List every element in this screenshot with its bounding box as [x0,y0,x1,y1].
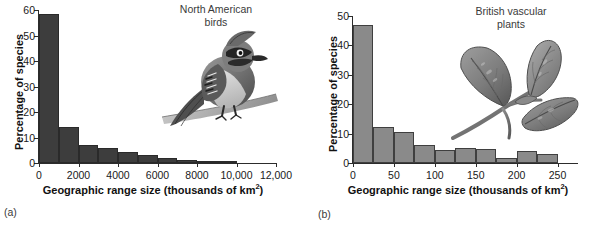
y-tick-label: 40 [337,39,349,51]
bar [476,149,496,163]
x-tick [353,163,354,167]
x-tick-label: 10,000 [220,169,252,181]
x-tick-label: 6000 [146,169,169,181]
bar [39,14,59,163]
x-tick [79,163,80,167]
x-tick [276,163,277,167]
y-tick-label: 10 [337,128,349,140]
x-tick-label: 150 [467,169,485,181]
x-tick-label: 12,000 [260,169,292,181]
x-tick-label: 100 [426,169,444,181]
panel-letter-b: (b) [318,208,331,220]
bar [118,152,138,163]
x-tick-label: 250 [549,169,567,181]
bar [79,145,99,163]
x-tick-label: 50 [388,169,400,181]
x-tick [517,163,518,167]
x-tick [476,163,477,167]
bar [373,127,393,163]
x-tick [118,163,119,167]
x-tick [435,163,436,167]
x-axis-label-a: Geographic range size (thousands of km2) [22,182,284,196]
three-leaf-plant-illustration [445,30,581,148]
bar [353,25,373,163]
y-tick-label: 0 [29,157,35,169]
x-tick-label: 200 [508,169,526,181]
blue-jay-bird-illustration [160,20,282,145]
bar [496,158,516,163]
bar [177,160,197,163]
x-tick-label: 0 [36,169,42,181]
y-tick-label: 0 [343,157,349,169]
x-axis-label-a-text: Geographic range size (thousands of km [43,184,256,196]
figure-two-histograms: Percentage of species 0102030405060 0200… [0,0,591,231]
x-axis-label-b: Geographic range size (thousands of km2) [327,182,589,196]
group-title-b: British vascular plants [447,5,575,30]
y-tick-label: 50 [337,10,349,22]
y-tick-label: 30 [337,69,349,81]
panel-letter-a: (a) [4,206,17,218]
bar [158,158,178,163]
y-tick-label: 30 [23,81,35,93]
y-tick-label: 40 [23,55,35,67]
x-tick [237,163,238,167]
bar [138,155,158,163]
x-tick [394,163,395,167]
x-tick [558,163,559,167]
x-tick [39,163,40,167]
bar [517,151,537,163]
x-axis-label-b-text: Geographic range size (thousands of km [348,184,561,196]
bar [414,145,434,163]
panel-b: Percentage of species 01020304050 050100… [295,0,591,231]
y-tick-label: 50 [23,30,35,42]
x-axis-label-a-tail: ) [260,184,264,196]
x-axis-label-b-tail: ) [565,184,569,196]
bar [59,127,79,163]
bar [98,148,118,163]
y-tick-label: 20 [23,106,35,118]
bar [455,148,475,163]
y-tick-label: 20 [337,98,349,110]
y-tick-label: 60 [23,4,35,16]
x-tick-label: 8000 [185,169,208,181]
bar [197,161,217,163]
x-tick-label: 4000 [106,169,129,181]
x-tick-label: 2000 [67,169,90,181]
bar [217,161,237,163]
panel-a: Percentage of species 0102030405060 0200… [0,0,295,231]
x-tick [197,163,198,167]
y-tick-label: 10 [23,132,35,144]
bar [435,150,455,163]
x-tick [158,163,159,167]
bar [394,132,414,163]
bar [537,154,557,163]
x-tick-label: 0 [350,169,356,181]
